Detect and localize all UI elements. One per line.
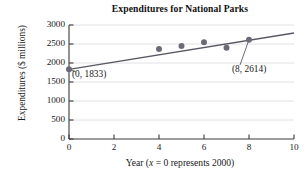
y-axis-label: Expenditures ($ millions) <box>17 3 27 143</box>
y-axis-tick-label: 500 <box>29 115 65 124</box>
plot-svg <box>69 25 294 139</box>
y-axis-tick-label: 1000 <box>29 96 65 105</box>
x-axis-label-suffix: = 0 represents 2000) <box>153 157 234 168</box>
data-point <box>156 46 162 52</box>
x-axis-tick-label: 2 <box>102 143 126 152</box>
data-point <box>201 39 207 45</box>
x-axis-tick-label: 8 <box>237 143 261 152</box>
x-axis-tick-labels: 0246810 <box>0 143 307 155</box>
data-point <box>246 37 252 43</box>
x-axis-label-prefix: Year ( <box>126 157 149 168</box>
annotation-point-left: (0, 1833) <box>72 69 106 79</box>
annotation-point-right: (8, 2614) <box>232 64 266 74</box>
data-point <box>179 43 185 49</box>
x-axis-tick-label: 6 <box>192 143 216 152</box>
x-axis-label: Year (x = 0 represents 2000) <box>60 157 300 168</box>
data-point <box>224 45 230 51</box>
chart-figure: Expenditures for National Parks Expendit… <box>0 0 307 181</box>
x-axis-tick-label: 0 <box>57 143 81 152</box>
chart-title: Expenditures for National Parks <box>60 3 300 14</box>
y-axis-tick-label: 3000 <box>29 20 65 29</box>
x-axis-tick-label: 10 <box>282 143 306 152</box>
plot-area <box>69 25 294 139</box>
x-axis-tick-label: 4 <box>147 143 171 152</box>
y-axis-tick-label: 2500 <box>29 39 65 48</box>
y-axis-tick-label: 2000 <box>29 58 65 67</box>
y-axis-tick-label: 1500 <box>29 77 65 86</box>
annotation-leader-line <box>240 40 249 65</box>
